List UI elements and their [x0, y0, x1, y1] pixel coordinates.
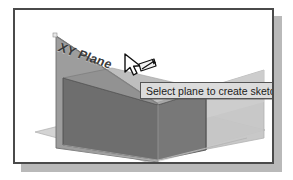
- figure-frame: XY Plane Select plane to create sketch o…: [13, 8, 274, 164]
- sketch-plane-tooltip: Select plane to create sketch or: [140, 82, 272, 99]
- page-background: XY Plane Select plane to create sketch o…: [0, 0, 293, 180]
- xy-plane-corner-handle[interactable]: [53, 33, 57, 37]
- 3d-modeling-viewport[interactable]: XY Plane Select plane to create sketch o…: [15, 10, 272, 162]
